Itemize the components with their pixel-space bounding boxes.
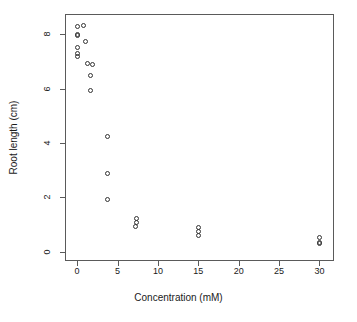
y-axis-tick-label: 4 bbox=[38, 137, 56, 149]
y-axis-label-text: Root length (cm) bbox=[9, 101, 20, 175]
y-axis-tick bbox=[60, 89, 65, 90]
y-axis-tick-label: 2 bbox=[38, 191, 56, 203]
x-axis-tick-label: 20 bbox=[234, 266, 244, 276]
x-axis-label: Concentration (mM) bbox=[0, 292, 357, 303]
y-axis-tick bbox=[60, 197, 65, 198]
x-axis-tick-label: 30 bbox=[314, 266, 324, 276]
y-axis-tick-label-text: 6 bbox=[42, 86, 52, 91]
x-axis-tick-label: 15 bbox=[193, 266, 203, 276]
y-axis-tick-label: 8 bbox=[38, 28, 56, 40]
scatter-plot-figure: 05101520253002468 Concentration (mM) Roo… bbox=[0, 0, 357, 322]
x-axis-tick-label: 10 bbox=[153, 266, 163, 276]
y-axis-tick bbox=[60, 252, 65, 253]
y-axis-label: Root length (cm) bbox=[6, 0, 22, 275]
x-axis-tick-label: 0 bbox=[75, 266, 80, 276]
y-axis-tick-label-text: 2 bbox=[42, 195, 52, 200]
y-axis-tick-label: 6 bbox=[38, 83, 56, 95]
y-axis-tick-label-text: 0 bbox=[42, 249, 52, 254]
y-axis-tick bbox=[60, 143, 65, 144]
y-axis-tick-label: 0 bbox=[38, 246, 56, 258]
y-axis-tick-label-text: 8 bbox=[42, 32, 52, 37]
y-axis-tick-label-text: 4 bbox=[42, 140, 52, 145]
x-axis-tick-label: 25 bbox=[274, 266, 284, 276]
y-axis-tick bbox=[60, 34, 65, 35]
x-axis-tick-label: 5 bbox=[115, 266, 120, 276]
plot-frame bbox=[65, 14, 334, 261]
